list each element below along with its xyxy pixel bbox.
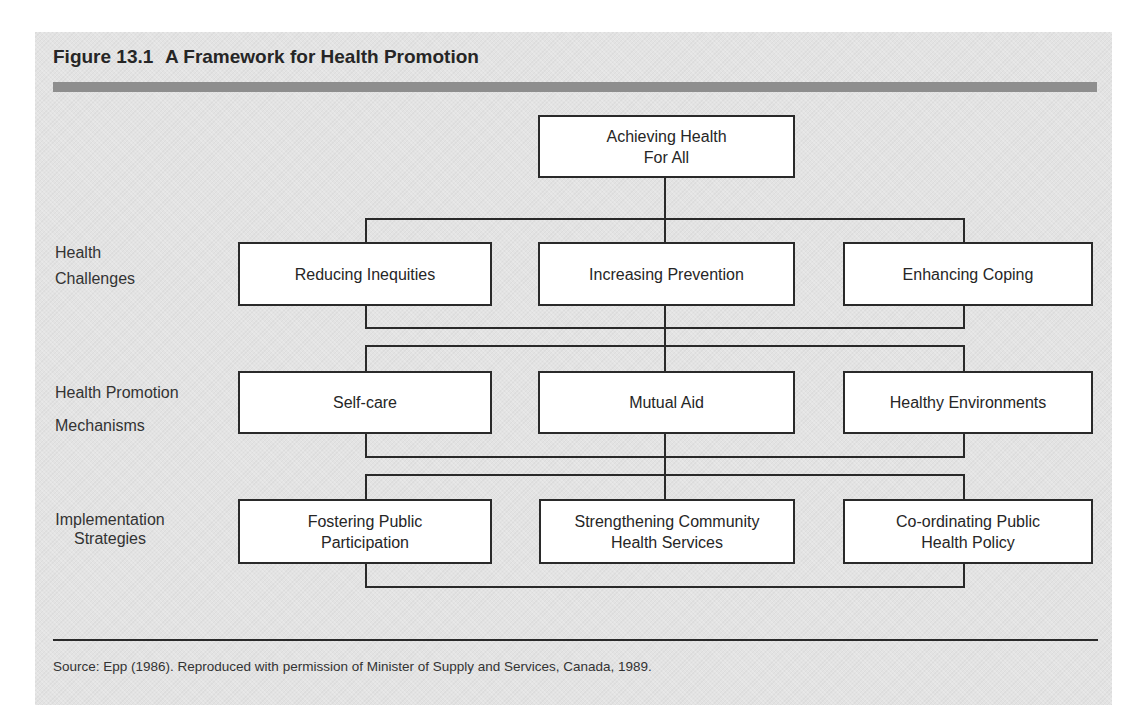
box-increasing-prevention: Increasing Prevention [538, 242, 795, 306]
row-label-line1: Health [55, 240, 135, 266]
box-label-line1: Strengthening Community [575, 511, 760, 532]
box-label-line2: Health Policy [921, 532, 1014, 553]
box-coordinating-public-health-policy: Co-ordinating Public Health Policy [843, 499, 1093, 564]
box-reducing-inequities: Reducing Inequities [238, 242, 492, 306]
box-label: Self-care [333, 392, 397, 413]
box-label: Mutual Aid [629, 392, 704, 413]
box-mutual-aid: Mutual Aid [538, 371, 795, 434]
root-box-achieving-health-for-all: Achieving Health For All [538, 115, 795, 178]
row-label-line1: Implementation [55, 510, 165, 529]
row-label-health-challenges: Health Challenges [55, 240, 135, 292]
source-divider-rule [53, 639, 1098, 641]
box-strengthening-community-health-services: Strengthening Community Health Services [539, 499, 795, 564]
row-label-line1: Health Promotion [55, 376, 179, 409]
root-box-line2: For All [644, 147, 689, 168]
box-fostering-public-participation: Fostering Public Participation [238, 499, 492, 564]
box-label: Reducing Inequities [295, 264, 436, 285]
box-label: Increasing Prevention [589, 264, 744, 285]
row-label-line2: Mechanisms [55, 409, 179, 442]
row-label-implementation-strategies: Implementation Strategies [55, 510, 165, 548]
source-citation: Source: Epp (1986). Reproduced with perm… [53, 659, 652, 674]
box-label: Healthy Environments [890, 392, 1047, 413]
box-healthy-environments: Healthy Environments [843, 371, 1093, 434]
box-self-care: Self-care [238, 371, 492, 434]
box-label-line2: Health Services [611, 532, 723, 553]
row-label-health-promotion-mechanisms: Health Promotion Mechanisms [55, 376, 179, 442]
box-label-line1: Fostering Public [308, 511, 423, 532]
row-label-line2: Challenges [55, 266, 135, 292]
box-label-line1: Co-ordinating Public [896, 511, 1040, 532]
row-label-line2: Strategies [55, 529, 165, 548]
box-label: Enhancing Coping [903, 264, 1034, 285]
root-box-line1: Achieving Health [606, 126, 726, 147]
connector-lines [0, 0, 1141, 728]
box-label-line2: Participation [321, 532, 409, 553]
box-enhancing-coping: Enhancing Coping [843, 242, 1093, 306]
